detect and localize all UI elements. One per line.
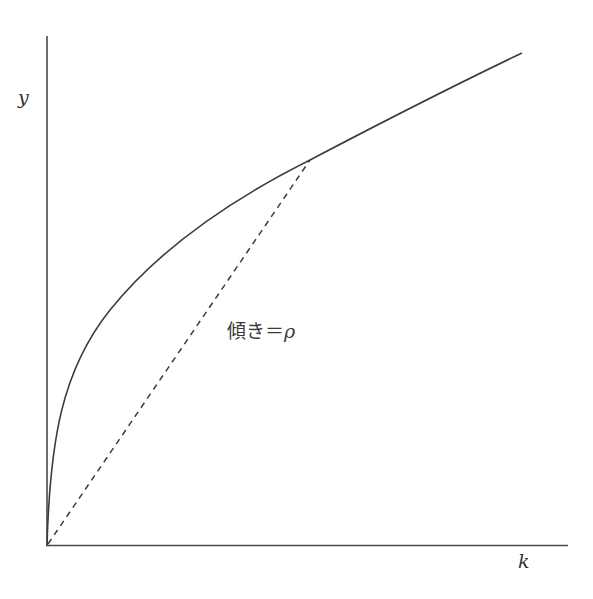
rho-symbol: ρ xyxy=(284,320,295,342)
dashed-ray xyxy=(48,160,310,544)
diagram-canvas xyxy=(0,0,593,599)
y-axis-label: y xyxy=(18,86,29,108)
x-axis-label: k xyxy=(518,550,530,572)
production-curve xyxy=(47,53,522,545)
slope-text: 傾き＝ xyxy=(227,320,284,342)
slope-annotation: 傾き＝ρ xyxy=(227,316,295,343)
